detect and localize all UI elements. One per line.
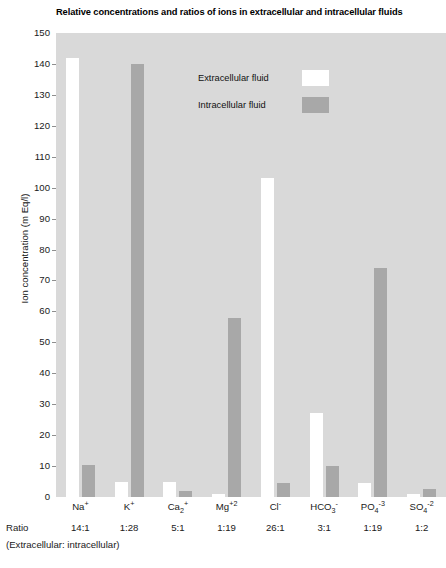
bar-HCO3-extracellular [310,413,323,497]
y-tick-label: 90 [10,214,50,224]
x-axis-ion-label: SO4-2 [392,502,446,512]
ratio-row-label: Ratio [6,522,28,533]
chart-legend: Extracellular fluidIntracellular fluid [198,70,329,124]
bar-Cl-extracellular [261,178,274,497]
bar-Cl-intracellular [277,483,290,497]
y-tick-label: 100 [10,183,50,193]
y-tick-label: 110 [10,152,50,162]
y-tick-label: 50 [10,337,50,347]
y-tick-label: 10 [10,461,50,471]
legend-label: Intracellular fluid [198,100,294,110]
bar-Na-extracellular [66,58,79,497]
gray-swatch [302,97,329,113]
y-tick-label: 0 [10,492,50,502]
bar-K-extracellular [115,482,128,497]
legend-item: Extracellular fluid [198,70,329,86]
y-tick-label: 70 [10,275,50,285]
bar-HCO3-intracellular [326,466,339,497]
white-swatch [302,70,329,86]
bar-SO42-intracellular [423,489,436,497]
bar-Ca2-intracellular [179,491,192,497]
y-tick-label: 60 [10,306,50,316]
bar-K-intracellular [131,64,144,497]
bar-Mg2-extracellular [212,494,225,497]
bar-PO43-intracellular [374,268,387,497]
legend-item: Intracellular fluid [198,97,329,113]
y-tick-label: 120 [10,121,50,131]
legend-label: Extracellular fluid [198,73,294,83]
chart-title: Relative concentrations and ratios of io… [56,7,446,18]
y-tick-label: 130 [10,90,50,100]
y-tick-label: 150 [10,28,50,38]
y-tick-label: 30 [10,399,50,409]
y-tick-label: 40 [10,368,50,378]
bar-SO42-extracellular [407,494,420,497]
y-tick-label: 140 [10,59,50,69]
bar-PO43-extracellular [358,483,371,497]
ratio-row-sublabel: (Extracellular: intracellular) [6,539,120,550]
bar-Ca2-extracellular [163,482,176,497]
y-tick-label: 80 [10,245,50,255]
bar-Na-intracellular [82,465,95,497]
x-axis-group: SO4-21:2 [392,502,446,532]
chart-figure: Relative concentrations and ratios of io… [0,0,446,568]
x-axis-ratio-label: 1:2 [392,523,446,533]
bar-Mg2-intracellular [228,318,241,497]
y-tick-label: 20 [10,430,50,440]
